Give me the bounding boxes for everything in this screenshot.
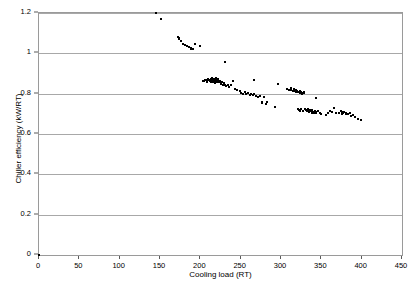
x-tick-label: 450	[395, 262, 408, 270]
data-point	[206, 81, 208, 83]
chiller-efficiency-scatter-chart: Chiller efficiency (kW/RT) 00.20.40.60.8…	[0, 0, 420, 294]
x-tick-mark	[199, 256, 200, 259]
x-tick-label: 150	[153, 262, 166, 270]
data-point	[327, 112, 329, 114]
y-tick-label: 0	[27, 250, 31, 258]
data-point	[253, 79, 255, 81]
x-tick-mark	[38, 256, 39, 259]
x-tick-label: 250	[233, 262, 246, 270]
x-tick-label: 400	[354, 262, 367, 270]
x-tick-label: 300	[274, 262, 287, 270]
data-point	[302, 110, 304, 112]
data-point	[360, 119, 362, 121]
data-point	[180, 40, 182, 42]
y-tick-label: 0.2	[21, 210, 31, 218]
y-axis: 00.20.40.60.811.2	[0, 12, 38, 256]
y-tick-label: 0.6	[21, 129, 31, 137]
gridline-y-0.2	[39, 215, 402, 216]
x-tick-label: 100	[112, 262, 125, 270]
data-point	[320, 113, 322, 115]
data-point	[315, 112, 317, 114]
data-point	[160, 18, 162, 20]
data-point	[325, 114, 327, 116]
data-point	[232, 80, 234, 82]
data-point	[277, 83, 279, 85]
data-point	[303, 92, 305, 94]
y-tick-label: 1	[27, 48, 31, 56]
x-tick-mark	[320, 256, 321, 259]
data-point	[315, 97, 317, 99]
data-point	[335, 112, 337, 114]
x-tick-mark	[361, 256, 362, 259]
gridline-y-1.2	[39, 13, 402, 14]
gridline-y-1	[39, 53, 402, 54]
data-point	[274, 106, 276, 108]
x-axis-title: Cooling load (RT)	[38, 270, 403, 279]
data-point	[199, 45, 201, 47]
y-tick-label: 0.8	[21, 89, 31, 97]
x-tick-mark	[159, 256, 160, 259]
x-tick-mark	[280, 256, 281, 259]
x-tick-label: 350	[314, 262, 327, 270]
data-point	[354, 116, 356, 118]
x-tick-label: 50	[74, 262, 82, 270]
data-point	[224, 61, 226, 63]
data-point	[266, 101, 268, 103]
y-tick-label: 0.4	[21, 169, 31, 177]
data-point	[333, 107, 335, 109]
plot-area	[38, 12, 403, 256]
data-point	[259, 95, 261, 97]
x-tick-mark	[240, 256, 241, 259]
gridline-y-0.4	[39, 174, 402, 175]
x-tick-label: 0	[36, 262, 40, 270]
data-point	[230, 84, 232, 86]
data-point	[263, 96, 265, 98]
data-point	[299, 110, 301, 112]
x-tick-mark	[401, 256, 402, 259]
data-point	[192, 48, 194, 50]
x-tick-label: 200	[193, 262, 206, 270]
data-point	[155, 12, 157, 14]
gridline-y-0.6	[39, 134, 402, 135]
data-point	[194, 43, 196, 45]
x-tick-mark	[78, 256, 79, 259]
x-tick-mark	[119, 256, 120, 259]
y-tick-label: 1.2	[21, 8, 31, 16]
data-point	[331, 111, 333, 113]
data-point	[261, 102, 263, 104]
data-point	[349, 112, 351, 114]
gridline-y-0.8	[39, 94, 402, 95]
